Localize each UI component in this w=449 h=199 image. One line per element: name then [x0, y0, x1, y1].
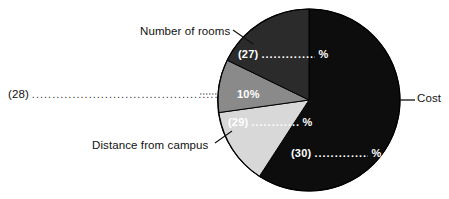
slice-value-distance-from-campus: (29) % — [228, 116, 312, 128]
callout-cost: Cost — [417, 92, 441, 104]
callout-blank-28-text: (28) — [8, 88, 29, 100]
slice-value-cost-number: (30) — [291, 147, 311, 159]
slice-value-number-of-rooms-number: (27) — [238, 48, 258, 60]
slice-value-blank-28: 10% — [237, 88, 260, 100]
slice-value-number-of-rooms-percent: % — [318, 48, 328, 60]
slice-value-cost: (30) % — [291, 147, 381, 159]
slice-value-distance-dots — [251, 116, 299, 128]
slice-value-number-of-rooms: (27) % — [238, 48, 328, 60]
slice-value-cost-percent: % — [371, 147, 381, 159]
slice-value-distance-number: (29) — [228, 116, 248, 128]
callout-distance-from-campus: Distance from campus — [92, 139, 208, 151]
slice-value-distance-percent: % — [302, 116, 312, 128]
leader-dots-28 — [32, 88, 218, 100]
pie-chart-figure: Number of rooms (28) Distance from campu… — [0, 0, 449, 199]
callout-number-of-rooms: Number of rooms — [140, 25, 230, 37]
slice-value-cost-dots — [314, 147, 368, 159]
callout-blank-28: (28) — [8, 88, 218, 100]
slice-value-number-of-rooms-dots — [261, 48, 315, 60]
